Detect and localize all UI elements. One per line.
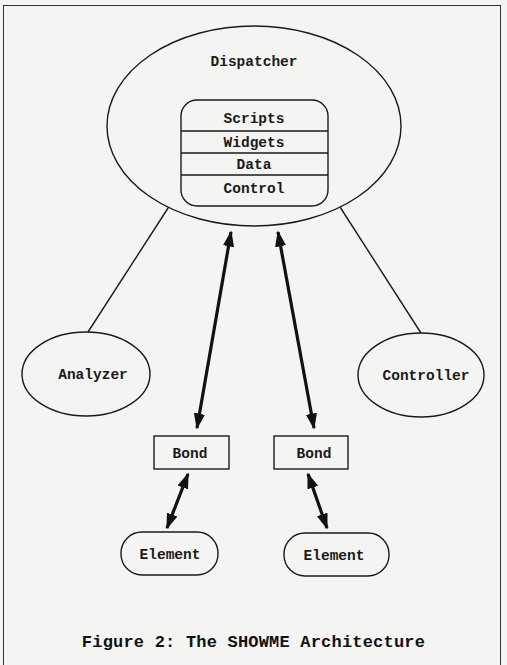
edge-dispatcher-bond-left	[197, 232, 231, 428]
stack-layer-data: Data	[237, 157, 272, 173]
edge-bond-right-element-right	[308, 474, 327, 528]
controller-node: Controller	[358, 333, 484, 417]
element-left-label: Element	[140, 547, 201, 563]
analyzer-label: Analyzer	[58, 367, 128, 383]
edge-dispatcher-bond-right	[278, 232, 314, 428]
bond-left-label: Bond	[173, 446, 208, 462]
element-right-label: Element	[304, 548, 365, 564]
dispatcher-stack: Scripts Widgets Data Control	[181, 100, 328, 206]
edge-bond-left-element-left	[167, 474, 188, 528]
stack-layer-scripts: Scripts	[224, 111, 285, 127]
stack-layer-control: Control	[224, 181, 285, 197]
stack-layer-widgets: Widgets	[224, 135, 285, 151]
figure-caption: Figure 2: The SHOWME Architecture	[0, 633, 507, 652]
edge-dispatcher-controller	[340, 207, 421, 333]
element-left-node: Element	[121, 532, 218, 575]
dispatcher-label: Dispatcher	[210, 54, 297, 70]
bond-left-node: Bond	[154, 436, 229, 469]
bond-right-node: Bond	[274, 436, 348, 469]
controller-label: Controller	[382, 368, 469, 384]
element-right-node: Element	[284, 533, 389, 576]
analyzer-node: Analyzer	[22, 332, 150, 416]
bond-right-label: Bond	[297, 446, 332, 462]
edge-dispatcher-analyzer	[88, 205, 170, 332]
